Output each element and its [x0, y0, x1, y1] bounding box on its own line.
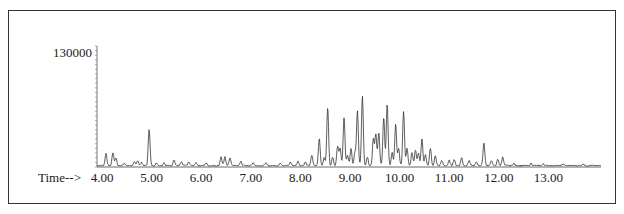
x-tick-label: 8.00	[289, 170, 312, 185]
x-tick-label: 4.00	[91, 170, 114, 185]
x-tick-label: 6.00	[190, 170, 213, 185]
chromatogram-trace	[97, 96, 601, 166]
y-max-label: 130000	[53, 45, 92, 60]
x-tick-label: 12.00	[484, 170, 513, 185]
x-tick-label: 9.00	[339, 170, 362, 185]
x-tick-label: 10.00	[385, 170, 414, 185]
x-tick-label: 11.00	[435, 170, 464, 185]
x-axis: 4.005.006.007.008.009.0010.0011.0012.001…	[91, 167, 601, 185]
x-tick-label: 7.00	[239, 170, 262, 185]
x-tick-label: 5.00	[140, 170, 163, 185]
y-axis	[95, 46, 97, 167]
x-tick-label: 13.00	[534, 170, 563, 185]
chromatogram-plot: 4.005.006.007.008.009.0010.0011.0012.001…	[0, 0, 624, 214]
x-axis-prefix-label: Time-->	[38, 170, 81, 185]
